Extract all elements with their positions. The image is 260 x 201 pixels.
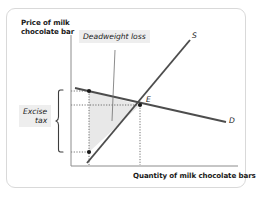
excise-tax-callout: Excise tax <box>19 105 51 127</box>
point-consumer-price <box>87 89 91 93</box>
excise-tax-label-line1: Excise <box>23 107 47 116</box>
y-axis-label-line1: Price of milk <box>21 18 70 27</box>
excise-tax-brace <box>56 90 63 152</box>
excise-tax-label-line2: tax <box>35 116 47 125</box>
demand-curve-label: D <box>229 116 235 125</box>
supply-curve-label: S <box>192 31 197 40</box>
x-axis-label: Quantity of milk chocolate bars <box>133 171 256 180</box>
y-axis-label: Price of milk chocolate bar <box>21 18 74 37</box>
point-producer-price <box>87 150 91 154</box>
point-equilibrium <box>138 103 142 107</box>
equilibrium-point-label: E <box>146 95 151 104</box>
y-axis-label-line2: chocolate bar <box>21 27 74 36</box>
deadweight-loss-callout: Deadweight loss <box>79 30 150 43</box>
